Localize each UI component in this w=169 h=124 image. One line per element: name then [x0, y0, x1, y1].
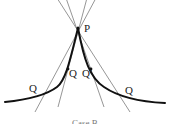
tangent-lines-diagram: P Q Q Q' Q Case B: [0, 0, 169, 124]
right-curve: [78, 28, 165, 103]
label-q-left: Q: [29, 82, 37, 94]
caption: Case B: [72, 118, 98, 124]
point-p: [76, 26, 79, 29]
label-q-center-right: Q': [82, 67, 92, 79]
label-q-right: Q: [125, 84, 133, 96]
label-q-center-left: Q: [69, 67, 77, 79]
left-curve: [5, 28, 78, 102]
label-p: P: [84, 22, 90, 34]
line-1: [35, 0, 96, 112]
